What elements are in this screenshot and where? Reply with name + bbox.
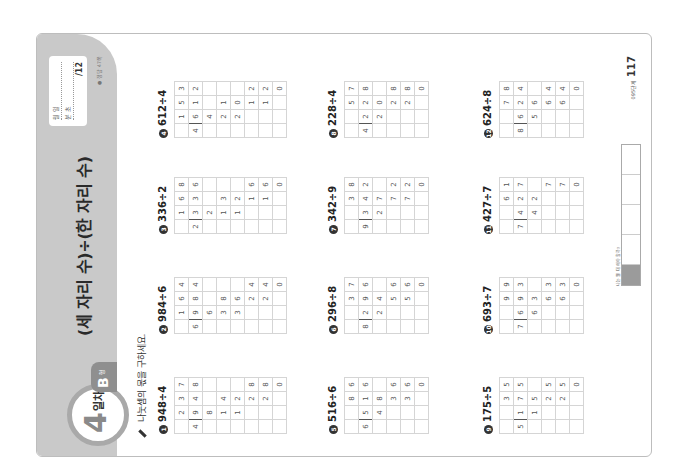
grid-cell[interactable] — [203, 82, 217, 96]
grid-cell[interactable] — [203, 124, 217, 138]
grid-cell[interactable] — [387, 206, 401, 220]
grid-cell[interactable] — [542, 192, 556, 206]
grid-cell[interactable] — [570, 124, 584, 138]
grid-cell[interactable] — [245, 124, 259, 138]
grid-cell[interactable]: 8 — [259, 378, 273, 392]
grid-cell[interactable] — [528, 124, 542, 138]
grid-cell[interactable]: 1 — [231, 206, 245, 220]
grid-cell[interactable]: 2 — [373, 206, 387, 220]
grid-cell[interactable]: 6 — [345, 378, 359, 392]
self-evaluation-cell[interactable] — [622, 205, 640, 235]
grid-cell[interactable] — [345, 420, 359, 434]
grid-cell[interactable]: 4 — [217, 392, 231, 406]
grid-cell[interactable] — [273, 320, 287, 334]
grid-cell[interactable] — [203, 278, 217, 292]
grid-cell[interactable] — [401, 110, 415, 124]
grid-cell[interactable] — [528, 220, 542, 234]
grid-cell[interactable]: 0 — [415, 278, 429, 292]
grid-cell[interactable]: 3 — [189, 192, 203, 206]
grid-cell[interactable]: 0 — [570, 278, 584, 292]
grid-cell[interactable]: 4 — [514, 82, 528, 96]
grid-cell[interactable] — [259, 110, 273, 124]
grid-cell[interactable] — [259, 306, 273, 320]
grid-cell[interactable] — [175, 320, 189, 334]
grid-cell[interactable] — [245, 206, 259, 220]
grid-cell[interactable]: 0 — [570, 82, 584, 96]
grid-cell[interactable]: 3 — [217, 192, 231, 206]
grid-cell[interactable] — [387, 220, 401, 234]
grid-cell[interactable] — [542, 124, 556, 138]
grid-cell[interactable] — [217, 124, 231, 138]
grid-cell[interactable]: 1 — [217, 96, 231, 110]
grid-cell[interactable] — [556, 192, 570, 206]
grid-cell[interactable]: 2 — [245, 292, 259, 306]
grid-cell[interactable]: 7 — [500, 96, 514, 110]
grid-cell[interactable] — [273, 406, 287, 420]
grid-cell[interactable] — [259, 320, 273, 334]
grid-cell[interactable]: 6 — [175, 192, 189, 206]
grid-cell[interactable] — [273, 192, 287, 206]
grid-cell[interactable]: 3 — [217, 306, 231, 320]
grid-cell[interactable]: 0 — [231, 96, 245, 110]
grid-cell[interactable]: 8 — [245, 378, 259, 392]
grid-cell[interactable]: 5 — [359, 406, 373, 420]
grid-cell[interactable] — [542, 306, 556, 320]
grid-cell[interactable] — [415, 320, 429, 334]
grid-cell[interactable] — [528, 278, 542, 292]
grid-cell[interactable]: 2 — [359, 178, 373, 192]
grid-cell[interactable]: 1 — [528, 406, 542, 420]
grid-cell[interactable]: 8 — [401, 82, 415, 96]
grid-cell[interactable] — [231, 278, 245, 292]
grid-cell[interactable] — [415, 192, 429, 206]
grid-cell[interactable] — [528, 178, 542, 192]
grid-cell[interactable] — [231, 124, 245, 138]
grid-cell[interactable]: 9 — [189, 406, 203, 420]
grid-cell[interactable] — [345, 320, 359, 334]
grid-cell[interactable]: 3 — [345, 292, 359, 306]
grid-cell[interactable]: 6 — [189, 320, 203, 334]
grid-cell[interactable]: 6 — [500, 192, 514, 206]
grid-cell[interactable] — [245, 220, 259, 234]
grid-cell[interactable] — [415, 96, 429, 110]
grid-cell[interactable] — [542, 110, 556, 124]
grid-cell[interactable]: 3 — [189, 206, 203, 220]
grid-cell[interactable] — [373, 320, 387, 334]
grid-cell[interactable] — [175, 124, 189, 138]
grid-cell[interactable] — [387, 306, 401, 320]
grid-cell[interactable] — [401, 406, 415, 420]
grid-cell[interactable] — [556, 420, 570, 434]
grid-cell[interactable]: 8 — [359, 320, 373, 334]
grid-cell[interactable] — [387, 110, 401, 124]
grid-cell[interactable] — [203, 320, 217, 334]
grid-cell[interactable]: 4 — [189, 392, 203, 406]
grid-cell[interactable]: 6 — [359, 420, 373, 434]
grid-cell[interactable] — [415, 406, 429, 420]
grid-cell[interactable] — [245, 110, 259, 124]
grid-cell[interactable] — [570, 192, 584, 206]
grid-cell[interactable]: 3 — [175, 392, 189, 406]
grid-cell[interactable] — [203, 220, 217, 234]
grid-cell[interactable] — [415, 292, 429, 306]
grid-cell[interactable]: 1 — [217, 406, 231, 420]
grid-cell[interactable] — [203, 292, 217, 306]
grid-cell[interactable]: 1 — [500, 178, 514, 192]
grid-cell[interactable]: 1 — [359, 392, 373, 406]
grid-cell[interactable] — [500, 110, 514, 124]
grid-cell[interactable]: 5 — [556, 378, 570, 392]
grid-cell[interactable]: 6 — [542, 292, 556, 306]
grid-cell[interactable]: 2 — [231, 392, 245, 406]
grid-cell[interactable] — [542, 406, 556, 420]
grid-cell[interactable]: 2 — [259, 392, 273, 406]
grid-cell[interactable]: 5 — [175, 96, 189, 110]
grid-cell[interactable]: 8 — [373, 392, 387, 406]
grid-cell[interactable]: 6 — [359, 378, 373, 392]
grid-cell[interactable] — [542, 420, 556, 434]
grid-cell[interactable] — [245, 420, 259, 434]
grid-cell[interactable] — [231, 82, 245, 96]
grid-cell[interactable]: 5 — [528, 110, 542, 124]
grid-cell[interactable]: 8 — [359, 82, 373, 96]
grid-cell[interactable] — [528, 82, 542, 96]
grid-cell[interactable] — [387, 320, 401, 334]
grid-cell[interactable]: 6 — [189, 178, 203, 192]
grid-cell[interactable] — [401, 220, 415, 234]
